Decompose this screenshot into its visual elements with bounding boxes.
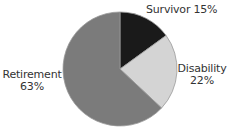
label-survivor: Survivor 15% xyxy=(146,4,217,16)
label-disability: Disability 22% xyxy=(176,63,228,87)
label-disability-pct: 22% xyxy=(176,75,228,87)
pie-slices xyxy=(63,12,177,126)
label-survivor-name: Survivor xyxy=(146,3,190,16)
label-retirement-pct: 63% xyxy=(1,81,63,93)
label-retirement: Retirement 63% xyxy=(1,69,63,93)
label-survivor-pct: 15% xyxy=(194,3,218,16)
